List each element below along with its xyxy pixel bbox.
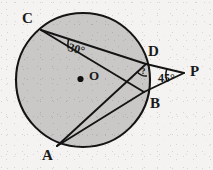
angle-label-45: 45° (158, 72, 175, 84)
point-label-B: B (150, 96, 160, 111)
point-label-C: C (22, 11, 33, 26)
angle-label-30: 30° (67, 41, 86, 57)
angle-label-unknown: ? (141, 67, 146, 76)
center-label-O: O (89, 69, 99, 82)
point-label-A: A (42, 148, 53, 163)
point-label-P: P (190, 64, 199, 79)
center-dot-O (77, 76, 83, 82)
point-label-D: D (148, 44, 159, 59)
